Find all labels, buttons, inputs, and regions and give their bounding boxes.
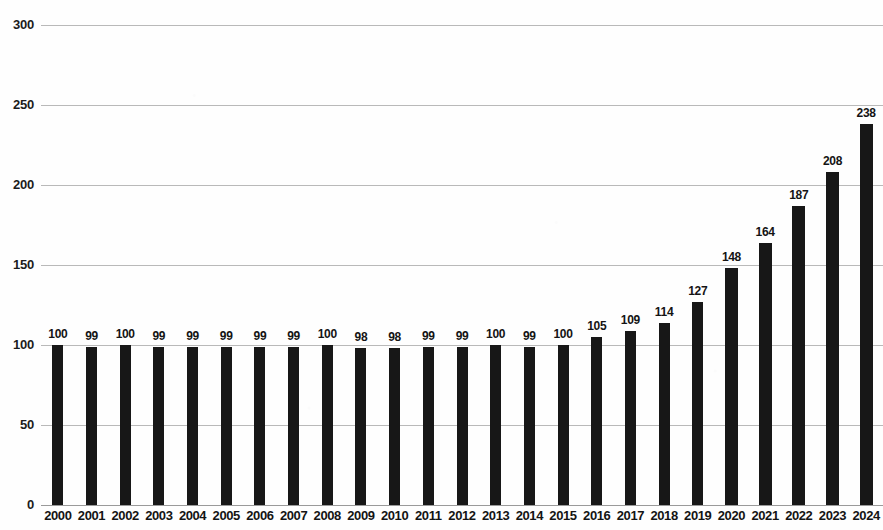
bar-value-label: 238 xyxy=(846,107,883,119)
x-axis-tick-label: 2007 xyxy=(274,509,314,522)
bar-value-label: 100 xyxy=(543,328,583,340)
axis-baseline xyxy=(41,505,883,506)
x-axis-tick-label: 2021 xyxy=(745,509,785,522)
bar-value-label: 100 xyxy=(105,328,145,340)
bar-value-label: 105 xyxy=(577,320,617,332)
bar xyxy=(826,172,839,505)
gridline xyxy=(41,425,883,426)
y-axis-tick-label: 150 xyxy=(0,258,34,271)
gridline xyxy=(41,185,883,186)
x-axis-tick-label: 2018 xyxy=(644,509,684,522)
y-axis-tick-label: 300 xyxy=(0,18,34,31)
x-axis-tick-label: 2011 xyxy=(408,509,448,522)
bar xyxy=(759,243,772,505)
bar-value-label: 99 xyxy=(139,330,179,342)
bar-value-label: 164 xyxy=(745,226,785,238)
bar-value-label: 99 xyxy=(509,330,549,342)
bar xyxy=(389,348,400,505)
y-axis-tick-label: 200 xyxy=(0,178,34,191)
gridline xyxy=(41,25,883,26)
x-axis-tick-label: 2004 xyxy=(173,509,213,522)
bar-value-label: 99 xyxy=(442,330,482,342)
x-axis-tick-label: 2008 xyxy=(307,509,347,522)
y-axis-tick-label: 50 xyxy=(0,418,34,431)
bar xyxy=(625,331,636,505)
bar xyxy=(591,337,602,505)
y-axis-tick-label: 100 xyxy=(0,338,34,351)
bar-value-label: 99 xyxy=(408,330,448,342)
bar-value-label: 109 xyxy=(610,314,650,326)
bar-value-label: 99 xyxy=(240,330,280,342)
x-axis-tick-label: 2009 xyxy=(341,509,381,522)
bar xyxy=(355,348,366,505)
x-axis-tick-label: 2020 xyxy=(711,509,751,522)
bar-value-label: 208 xyxy=(812,155,852,167)
gridline xyxy=(41,265,883,266)
bar-value-label: 148 xyxy=(711,251,751,263)
x-axis-tick-label: 2017 xyxy=(610,509,650,522)
x-axis-tick-label: 2002 xyxy=(105,509,145,522)
x-axis-tick-label: 2024 xyxy=(846,509,883,522)
x-axis-tick-label: 2010 xyxy=(375,509,415,522)
x-axis-tick-label: 2023 xyxy=(812,509,852,522)
bar-value-label: 187 xyxy=(779,189,819,201)
x-axis-tick-label: 2012 xyxy=(442,509,482,522)
x-axis-tick-label: 2013 xyxy=(476,509,516,522)
bar-value-label: 98 xyxy=(375,331,415,343)
y-axis-tick-label: 250 xyxy=(0,98,34,111)
x-axis-tick-label: 2016 xyxy=(577,509,617,522)
bar-chart: 300250200150100500 100991009999999999100… xyxy=(0,0,883,530)
bar xyxy=(692,302,703,505)
x-axis-tick-label: 2015 xyxy=(543,509,583,522)
x-axis-tick-label: 2005 xyxy=(206,509,246,522)
bar-value-label: 99 xyxy=(173,330,213,342)
bar-value-label: 99 xyxy=(206,330,246,342)
x-axis-tick-label: 2022 xyxy=(779,509,819,522)
bar-value-label: 99 xyxy=(274,330,314,342)
x-axis-tick-label: 2003 xyxy=(139,509,179,522)
bar-value-label: 100 xyxy=(38,328,78,340)
bar xyxy=(659,323,670,505)
bar-value-label: 100 xyxy=(307,328,347,340)
bar-value-label: 99 xyxy=(72,330,112,342)
bar xyxy=(725,268,738,505)
bar-value-label: 127 xyxy=(678,285,718,297)
bar xyxy=(860,124,873,505)
bar-value-label: 114 xyxy=(644,306,684,318)
bar xyxy=(792,206,805,505)
x-axis-tick-label: 2001 xyxy=(72,509,112,522)
bar-value-label: 100 xyxy=(476,328,516,340)
bar-value-label: 98 xyxy=(341,331,381,343)
x-axis-tick-label: 2006 xyxy=(240,509,280,522)
x-axis-tick-label: 2014 xyxy=(509,509,549,522)
x-axis-tick-label: 2000 xyxy=(38,509,78,522)
y-axis-tick-label: 0 xyxy=(0,498,34,511)
gridline xyxy=(41,105,883,106)
x-axis-tick-label: 2019 xyxy=(678,509,718,522)
gridline xyxy=(41,345,883,346)
